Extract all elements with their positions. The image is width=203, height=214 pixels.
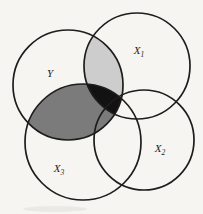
- figure-canvas: YX1X2X3: [0, 0, 203, 214]
- scan-smudge: [23, 206, 87, 212]
- venn-diagram: YX1X2X3: [0, 0, 203, 214]
